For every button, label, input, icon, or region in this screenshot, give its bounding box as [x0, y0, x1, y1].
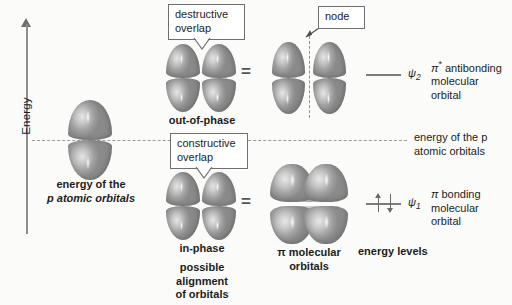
energy-level-line-bonding	[366, 203, 401, 205]
antibonding-mo-lobe-right	[313, 42, 346, 114]
energy-level-symbol-bonding: ψ1	[408, 196, 421, 211]
mo-lobe-right	[304, 206, 348, 244]
p-orbital-in-phase-left	[166, 172, 200, 240]
callout-tail-outline-destructive	[193, 37, 213, 50]
node-line	[309, 36, 310, 118]
callout-node: node	[318, 6, 365, 29]
mo-upper-half	[270, 164, 348, 202]
p-orbital-out-of-phase-right	[202, 44, 236, 112]
label-pi-molecular-orbitals: π molecular orbitals	[263, 246, 355, 273]
orbital-lobe-down	[272, 78, 305, 114]
orbital-lobe-down	[202, 78, 236, 112]
p-orbital-in-phase-right	[202, 172, 236, 240]
label-energy-levels: energy levels	[358, 245, 458, 259]
energy-level-description-bonding: π bonding molecular orbital	[431, 188, 512, 229]
energy-level-symbol-antibonding: ψ2	[408, 67, 421, 82]
orbital-lobe-up	[272, 42, 305, 78]
callout-tail-outline-constructive	[195, 166, 215, 179]
antibonding-mo-lobe-left	[272, 42, 305, 114]
atomic-orbital-caption: energy of the p atomic orbitals	[40, 178, 142, 205]
orbital-lobe-down	[202, 206, 236, 240]
label-in-phase: in-phase	[156, 242, 248, 256]
electron-arrow-down-icon	[390, 194, 391, 212]
energy-axis-label: Energy	[20, 81, 32, 151]
orbital-lobe-down	[313, 78, 346, 114]
mo-lower-half	[270, 206, 348, 244]
callout-constructive-overlap: constructive overlap	[170, 133, 248, 169]
equals-sign-bottom: =	[241, 192, 251, 212]
pi-bonding-molecular-orbital	[270, 164, 348, 244]
p-atomic-orbital	[68, 100, 112, 180]
energy-level-line-antibonding	[366, 74, 401, 76]
p-orbital-out-of-phase-left	[166, 44, 200, 112]
mo-lobe-right	[304, 164, 348, 202]
orbital-lobe-down	[68, 140, 112, 180]
electron-arrow-up-icon	[378, 194, 379, 212]
label-out-of-phase: out-of-phase	[156, 114, 248, 128]
orbital-lobe-up	[68, 100, 112, 140]
label-possible-alignment: possible alignment of orbitals	[156, 261, 248, 302]
orbital-lobe-down	[166, 78, 200, 112]
equals-sign-top: =	[241, 62, 251, 82]
energy-level-description-antibonding: π* antibonding molecular orbital	[431, 58, 512, 102]
orbital-lobe-down	[166, 206, 200, 240]
pi-molecular-orbital-diagram: Energy energy of the p atomic orbitals d…	[0, 0, 512, 305]
p-level-caption: energy of the p atomic orbitals	[414, 131, 510, 158]
orbital-lobe-up	[313, 42, 346, 78]
callout-destructive-overlap: destructive overlap	[168, 4, 245, 40]
